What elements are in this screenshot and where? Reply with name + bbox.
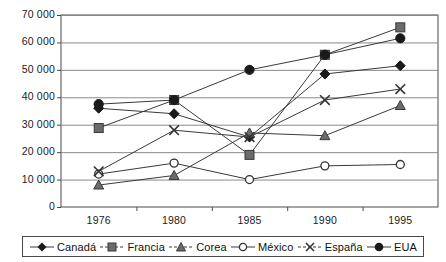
open-circle-marker-icon — [230, 241, 256, 253]
y-tick-label: 40 000 — [0, 90, 55, 102]
legend-label: México — [258, 241, 293, 253]
data-point-open-circle — [396, 160, 404, 168]
x-tick-label: 1985 — [220, 214, 280, 226]
data-point-open-circle — [321, 162, 329, 170]
legend-item-canadá[interactable]: Canadá — [29, 241, 96, 253]
line-chart: 010 00020 00030 00040 00050 00060 00070 … — [0, 0, 446, 262]
triangle-marker-icon — [168, 241, 194, 253]
data-point-filled-circle — [320, 50, 329, 59]
data-point-square — [396, 23, 405, 32]
data-point-filled-circle — [94, 100, 103, 109]
data-point-open-circle — [170, 159, 178, 167]
legend-item-méxico[interactable]: México — [230, 241, 293, 253]
data-point-filled-circle — [396, 34, 405, 43]
data-point-filled-circle — [245, 65, 254, 74]
y-tick-label: 10 000 — [0, 173, 55, 185]
legend-label: EUA — [394, 241, 417, 253]
chart-legend: CanadáFranciaCoreaMéxicoEspañaEUA — [22, 236, 424, 257]
y-tick-label: 70 000 — [0, 8, 55, 20]
legend-item-eua[interactable]: EUA — [366, 241, 417, 253]
y-tick-label: 50 000 — [0, 63, 55, 75]
data-point-square — [245, 150, 254, 159]
y-tick-label: 0 — [0, 200, 55, 212]
cross-marker-icon — [297, 241, 323, 253]
data-point-square — [94, 124, 103, 133]
diamond-marker-icon — [29, 241, 55, 253]
x-tick-label: 1990 — [295, 214, 355, 226]
filled-circle-marker-icon — [366, 241, 392, 253]
y-tick-label: 60 000 — [0, 35, 55, 47]
y-tick-label: 30 000 — [0, 118, 55, 130]
data-point-filled-circle — [170, 95, 179, 104]
data-point-open-circle — [246, 176, 254, 184]
legend-item-corea[interactable]: Corea — [168, 241, 226, 253]
x-tick-label: 1995 — [370, 214, 430, 226]
legend-label: Francia — [127, 241, 164, 253]
square-marker-icon — [99, 241, 125, 253]
y-tick-label: 20 000 — [0, 145, 55, 157]
x-tick-label: 1980 — [144, 214, 204, 226]
x-tick-label: 1976 — [69, 214, 129, 226]
legend-item-francia[interactable]: Francia — [99, 241, 164, 253]
legend-item-españa[interactable]: España — [297, 241, 363, 253]
legend-label: España — [325, 241, 363, 253]
legend-label: Corea — [196, 241, 226, 253]
legend-label: Canadá — [57, 241, 96, 253]
